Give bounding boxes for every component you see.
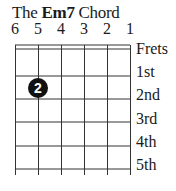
frets-header: Frets	[136, 40, 168, 58]
fret-label-3rd: 3rd	[136, 110, 157, 128]
fret-label-4th: 4th	[136, 133, 156, 151]
fret-label-5th: 5th	[136, 156, 156, 174]
finger-dot: 2	[28, 78, 48, 98]
fret-label-2nd: 2nd	[136, 86, 160, 104]
fret-label-1st: 1st	[136, 63, 155, 81]
